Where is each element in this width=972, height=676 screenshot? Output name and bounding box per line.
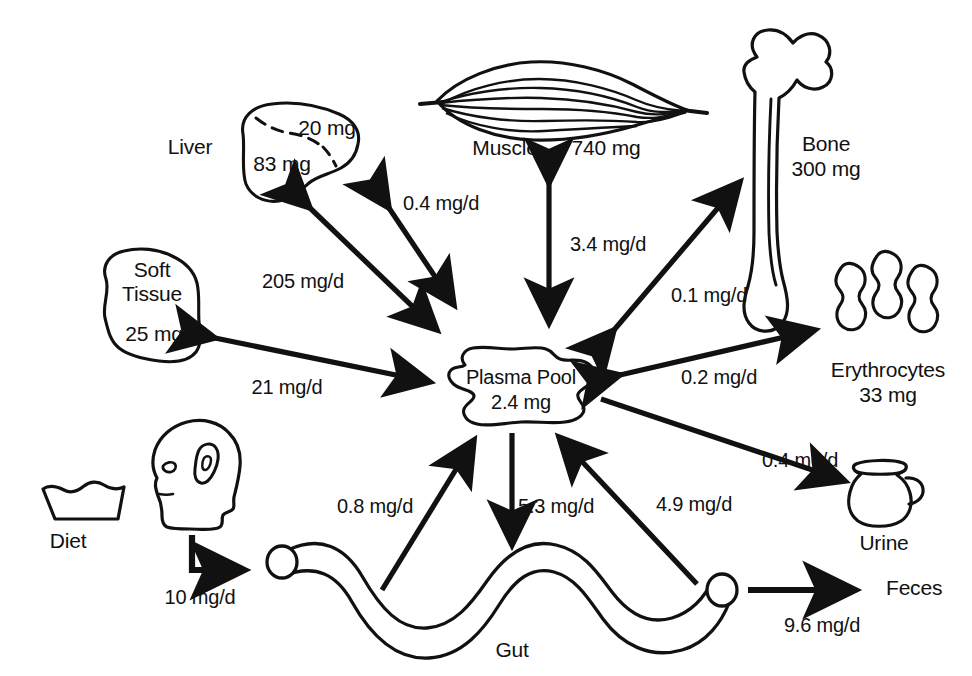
- plasma-pool-mass: 2.4 mg: [491, 391, 551, 413]
- flux-label-liver-plasma-0-4: 0.4 mg/d: [403, 192, 479, 214]
- flux-arrow-liver-plasma-205: [310, 208, 437, 330]
- flux-label-gut-plasma-4-9: 4.9 mg/d: [656, 493, 732, 515]
- plasma-pool-label: Plasma Pool: [466, 366, 576, 388]
- flux-label-erythrocytes-plasma-0-2: 0.2 mg/d: [681, 366, 757, 388]
- flux-label-liver-plasma-205: 205 mg/d: [262, 270, 344, 292]
- erythrocytes-mass: 33 mg: [859, 383, 916, 407]
- muscle-mass: 740 mg: [572, 136, 641, 160]
- flux-label-gut-plasma-0-8: 0.8 mg/d: [337, 495, 413, 517]
- flux-label-diet-gut-10: 10 mg/d: [165, 586, 236, 608]
- muscle-label: Muscle: [472, 136, 537, 160]
- flux-label-gut-feces-9-6: 9.6 mg/d: [784, 614, 860, 636]
- diet-bowl-icon: [43, 482, 124, 519]
- bone-label: Bone: [802, 132, 850, 156]
- liver-mass-secondary: 20 mg: [298, 116, 355, 140]
- urine-jug-icon: [849, 460, 923, 526]
- flux-label-plasma-urine-0-4: 0.4 mg/d: [762, 449, 838, 471]
- flux-label-plasma-gut-5-3: 5.3 mg/d: [518, 495, 594, 517]
- diet-label: Diet: [50, 529, 87, 553]
- head-profile-icon: [153, 420, 240, 529]
- gut-label: Gut: [495, 638, 528, 662]
- feces-label: Feces: [886, 576, 942, 600]
- flux-label-bone-plasma-0-1: 0.1 mg/d: [671, 284, 747, 306]
- liver-mass: 83 mg: [253, 152, 310, 176]
- flux-arrow-bone-plasma-0-1: [614, 182, 740, 330]
- muscle-icon: [420, 62, 707, 140]
- bone-icon: [744, 30, 832, 331]
- urine-label: Urine: [859, 531, 908, 555]
- flux-label-muscle-plasma-3-4: 3.4 mg/d: [570, 233, 646, 255]
- flux-label-softtissue-plasma-21: 21 mg/d: [252, 376, 323, 398]
- soft-tissue-label: Soft Tissue: [122, 258, 182, 305]
- liver-label: Liver: [168, 135, 213, 159]
- flux-arrow-diet-gut-10: [192, 535, 244, 570]
- erythrocytes-label: Erythrocytes: [831, 358, 945, 382]
- erythrocytes-icon: [836, 251, 937, 331]
- bone-mass: 300 mg: [792, 157, 861, 181]
- flux-arrow-softtissue-plasma-21: [215, 338, 430, 382]
- soft-tissue-mass: 25 mg: [125, 322, 182, 346]
- diagram-canvas: Liver 20 mg 83 mg Muscle 740 mg Bone 300…: [0, 0, 972, 676]
